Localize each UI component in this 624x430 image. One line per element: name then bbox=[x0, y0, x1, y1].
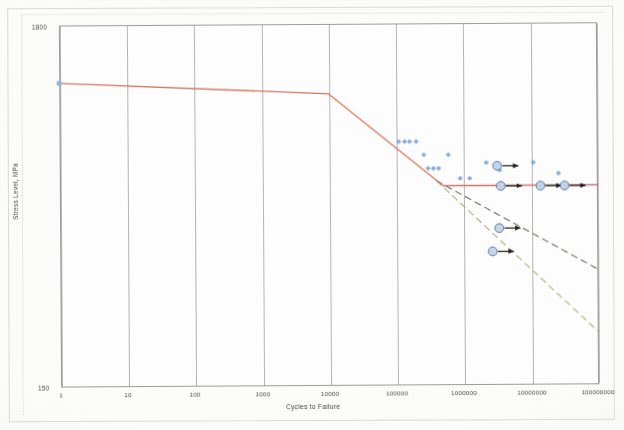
data-point-marker bbox=[407, 139, 412, 144]
data-point-marker bbox=[431, 166, 436, 171]
data-point-marker bbox=[556, 171, 561, 176]
marker-group bbox=[57, 78, 586, 259]
data-point-marker bbox=[436, 166, 441, 171]
data-point-marker bbox=[467, 176, 472, 181]
curve-start-marker bbox=[57, 81, 62, 86]
runout-marker bbox=[493, 161, 502, 170]
data-point-marker bbox=[458, 176, 463, 181]
data-point-marker bbox=[446, 152, 451, 157]
data-point-marker bbox=[421, 152, 426, 157]
data-point-marker bbox=[396, 139, 401, 144]
data-point-marker bbox=[425, 166, 430, 171]
runout-marker bbox=[495, 224, 504, 233]
runout-marker bbox=[496, 181, 505, 190]
series-line bbox=[59, 80, 598, 188]
data-point-marker bbox=[484, 160, 489, 165]
curve-group bbox=[59, 80, 599, 335]
runout-marker bbox=[560, 181, 569, 190]
data-point-marker bbox=[402, 139, 407, 144]
sn-fatigue-chart: 1800 150 1 10 100 1000 10000 100000 1000… bbox=[0, 0, 624, 430]
runout-marker bbox=[536, 181, 545, 190]
data-point-marker bbox=[531, 160, 536, 165]
chart-data-layer bbox=[0, 0, 624, 430]
runout-marker bbox=[488, 247, 497, 256]
data-point-marker bbox=[413, 139, 418, 144]
